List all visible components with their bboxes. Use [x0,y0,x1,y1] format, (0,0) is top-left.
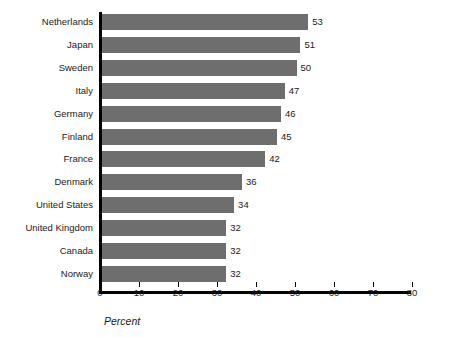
bar[interactable] [102,14,309,30]
x-axis-tick-label: 80 [407,288,418,298]
bar[interactable] [102,60,297,76]
x-axis-tick-label: 60 [329,288,340,298]
bar-value-label: 42 [265,155,280,165]
bar-row[interactable]: 45 [102,129,412,145]
bar-value-label: 36 [242,178,257,188]
category-label: United Kingdom [25,220,93,236]
x-axis-tick-label: 30 [212,288,223,298]
bar-row[interactable]: 42 [102,151,412,167]
bar-row[interactable]: 32 [102,220,412,236]
category-label: Denmark [54,174,93,190]
x-axis-tick-mark [334,282,336,287]
x-axis-title: Percent [104,315,140,327]
x-axis-tick-mark [139,282,141,287]
bar-row[interactable]: 51 [102,37,412,53]
bar-value-label: 34 [234,200,249,210]
bar-row[interactable]: 47 [102,83,412,99]
bar-value-label: 32 [226,246,241,256]
bar[interactable] [102,106,281,122]
x-axis-tick-mark [412,282,414,287]
bar[interactable] [102,129,278,145]
x-axis-tick-mark [256,282,258,287]
x-axis-tick-label: 20 [173,288,184,298]
bar-value-label: 51 [300,40,315,50]
x-axis-tick-label: 70 [368,288,379,298]
bar[interactable] [102,220,227,236]
bar-row[interactable]: 50 [102,60,412,76]
category-label: Sweden [59,60,93,76]
category-label: Netherlands [42,14,93,30]
bar[interactable] [102,151,266,167]
plot-area: 535150474645423634323232 [99,12,411,291]
bar-value-label: 46 [281,109,296,119]
category-label: Germany [54,106,93,122]
x-axis-tick-mark [295,282,297,287]
bar-row[interactable]: 46 [102,106,412,122]
category-label: Italy [76,83,93,99]
bar-row[interactable]: 32 [102,266,412,282]
bar-value-label: 47 [285,86,300,96]
bar-chart-figure: NetherlandsJapanSwedenItalyGermanyFinlan… [0,0,452,337]
category-label: Finland [62,129,93,145]
x-axis-tick-mark [100,282,102,287]
bar-value-label: 32 [226,269,241,279]
category-label: Norway [61,266,93,282]
x-axis-tick-label: 40 [251,288,262,298]
bar-row[interactable]: 34 [102,197,412,213]
x-axis-tick-mark [217,282,219,287]
bar-value-label: 45 [277,132,292,142]
x-axis-tick-mark [373,282,375,287]
bar[interactable] [102,83,285,99]
bar-value-label: 50 [297,63,312,73]
bar[interactable] [102,243,227,259]
x-axis-tick-label: 0 [97,288,102,298]
bar[interactable] [102,37,301,53]
x-axis-tick-mark [178,282,180,287]
category-axis-labels: NetherlandsJapanSwedenItalyGermanyFinlan… [0,12,93,291]
category-label: Japan [67,37,93,53]
x-axis-tick-label: 50 [290,288,301,298]
bar-row[interactable]: 32 [102,243,412,259]
bar-value-label: 53 [308,17,323,27]
bar-row[interactable]: 53 [102,14,412,30]
bar-row[interactable]: 36 [102,174,412,190]
category-label: France [63,151,93,167]
bar[interactable] [102,174,242,190]
x-axis-tick-label: 10 [134,288,145,298]
category-label: Canada [60,243,93,259]
bar[interactable] [102,266,227,282]
category-label: United States [36,197,93,213]
bar[interactable] [102,197,235,213]
bar-value-label: 32 [226,223,241,233]
